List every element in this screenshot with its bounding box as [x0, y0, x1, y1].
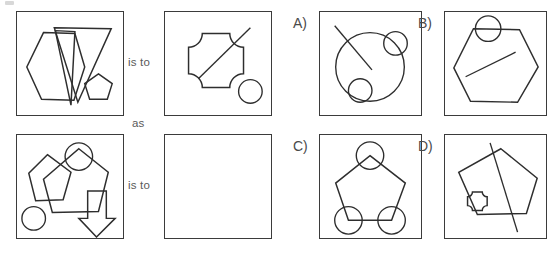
- pentagon-shape: [336, 156, 406, 221]
- prompt-top-left-figure: [17, 12, 123, 115]
- concave-cross-shape-small: [468, 192, 488, 211]
- scan-artifact-speck: [5, 1, 14, 5]
- option-panel-b[interactable]: [444, 11, 547, 116]
- circle-shape-lower-left: [348, 79, 372, 103]
- diagonal-line: [198, 28, 250, 79]
- option-c-figure: [320, 135, 421, 238]
- prompt-top-right-figure: [165, 12, 271, 115]
- option-panel-c[interactable]: [319, 134, 422, 239]
- relation-label-top-is-to: is to: [128, 57, 150, 69]
- circle-shape-small: [22, 207, 46, 231]
- answer-blank-figure: [165, 135, 271, 238]
- prompt-panel-top-left[interactable]: [16, 11, 124, 116]
- hexagon-shape: [27, 33, 85, 101]
- option-a-figure: [320, 12, 421, 115]
- triangle-shape-narrow: [55, 31, 75, 106]
- diagonal-line: [466, 52, 516, 77]
- circle-shape-small: [239, 80, 263, 104]
- relation-label-bottom-is-to: is to: [128, 180, 150, 192]
- diagonal-line-long: [490, 143, 517, 232]
- option-panel-d[interactable]: [444, 134, 547, 239]
- pentagon-shape-tilted: [459, 149, 537, 215]
- relation-label-as: as: [132, 118, 145, 130]
- answer-blank-panel[interactable]: [164, 134, 272, 239]
- option-b-figure: [445, 12, 546, 115]
- option-panel-a[interactable]: [319, 11, 422, 116]
- arrow-shape-down: [79, 191, 115, 237]
- option-d-figure: [445, 135, 546, 238]
- option-label-a: A): [293, 16, 307, 30]
- hexagon-shape: [454, 29, 538, 103]
- puzzle-stage: is to as is to: [0, 0, 557, 253]
- prompt-panel-bottom-left[interactable]: [16, 134, 124, 239]
- prompt-panel-top-right[interactable]: [164, 11, 272, 116]
- option-label-d: D): [418, 139, 433, 153]
- prompt-bottom-left-figure: [17, 135, 123, 238]
- option-label-c: C): [293, 139, 308, 153]
- option-label-b: B): [418, 16, 432, 30]
